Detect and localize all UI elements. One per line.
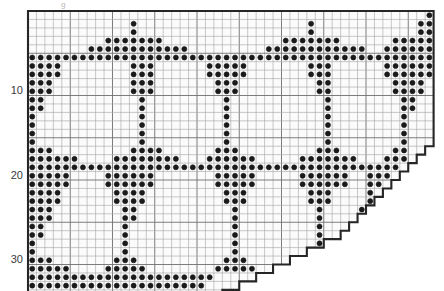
y-tick-label-10: 10 xyxy=(1,85,23,96)
top-artifact-mark: g xyxy=(61,1,65,9)
filet-crochet-chart: g 102030 xyxy=(0,0,444,291)
y-tick-label-20: 20 xyxy=(1,170,23,181)
pattern-grid xyxy=(26,9,436,291)
pattern-grid-svg xyxy=(26,9,436,291)
y-tick-label-30: 30 xyxy=(1,254,23,265)
